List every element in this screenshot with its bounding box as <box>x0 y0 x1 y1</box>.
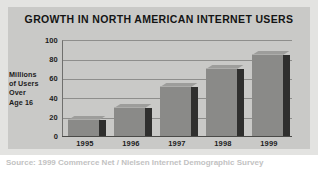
y-tick-label: 80 <box>36 55 58 64</box>
bar-front-face <box>252 54 283 136</box>
bar-side-face <box>145 108 152 136</box>
source-caption: Source: 1999 Commerce Net / Nielsen Inte… <box>6 158 306 171</box>
y-tick-label: 40 <box>36 94 58 103</box>
y-tick-label: 60 <box>36 74 58 83</box>
bar <box>206 65 244 136</box>
x-tick-label: 1996 <box>111 139 151 148</box>
bar <box>68 116 106 136</box>
y-axis-tick-labels: 100 80 60 40 20 0 <box>34 0 58 171</box>
chart-screenshot: GROWTH IN NORTH AMERICAN INTERNET USERS … <box>0 0 318 171</box>
bar-front-face <box>206 68 237 136</box>
y-tick-label: 0 <box>36 132 58 141</box>
bar <box>252 51 290 136</box>
bar-side-face <box>237 69 244 136</box>
x-tick-label: 1999 <box>249 139 289 148</box>
x-tick-label: 1995 <box>65 139 105 148</box>
bar-front-face <box>68 119 99 136</box>
bar-side-face <box>283 55 290 136</box>
bar-front-face <box>160 86 191 136</box>
y-tick-label: 100 <box>36 36 58 45</box>
bar <box>114 104 152 136</box>
bar-side-face <box>191 87 198 136</box>
x-axis-line <box>62 136 292 137</box>
x-tick-label: 1997 <box>157 139 197 148</box>
bar-side-face <box>99 120 106 136</box>
bar-front-face <box>114 107 145 136</box>
x-tick-label: 1998 <box>203 139 243 148</box>
y-tick-label: 20 <box>36 113 58 122</box>
bar <box>160 83 198 136</box>
